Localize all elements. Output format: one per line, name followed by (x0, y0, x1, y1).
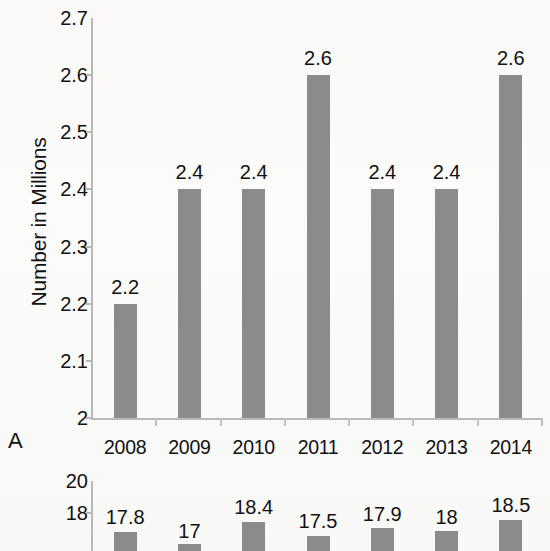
y-axis-tick-label: 2.7 (60, 7, 88, 30)
bar (242, 189, 265, 418)
bar (307, 75, 330, 418)
x-axis-tick-label: 2010 (233, 436, 275, 459)
y-axis-tick-mark (86, 512, 93, 514)
x-axis-tick-mark (477, 418, 479, 426)
chart-panel-b: 2018 17.81718.417.517.91818.5 (0, 470, 550, 551)
x-axis-tick-label: 2012 (361, 436, 403, 459)
bar (178, 189, 201, 418)
bar-value-label: 2.4 (368, 161, 396, 184)
y-axis-tick-label: 2.2 (60, 292, 88, 315)
bar-value-label: 18.4 (234, 496, 273, 519)
x-axis-tick-mark (348, 418, 350, 426)
x-axis-tick-mark (284, 418, 286, 426)
bar-value-label: 2.6 (497, 47, 525, 70)
x-axis-tick-label: 2008 (104, 436, 146, 459)
bar (114, 304, 137, 418)
y-axis-line-b (91, 481, 93, 551)
bar-value-label: 17.5 (299, 510, 338, 533)
plot-area-b: 17.81718.417.517.91818.5 (93, 470, 543, 551)
y-axis-tick-label: 20 (66, 470, 88, 493)
bar (371, 528, 394, 551)
bar (499, 75, 522, 418)
y-axis-tick-label: 18 (66, 502, 88, 525)
chart-panel-a: Number in Millions 22.12.22.32.42.52.62.… (0, 0, 550, 462)
bar-value-label: 2.4 (176, 161, 204, 184)
y-axis-tick-label: 2.1 (60, 349, 88, 372)
bar-value-label: 17 (178, 520, 200, 543)
bar (435, 189, 458, 418)
y-axis-tick-labels-b: 2018 (44, 470, 88, 551)
bar-value-label: 18.5 (491, 494, 530, 517)
x-axis-tick-label: 2011 (298, 436, 339, 459)
x-axis-tick-label: 2009 (168, 436, 210, 459)
bar (178, 544, 201, 551)
bar-value-label: 18 (435, 506, 457, 529)
bar-value-label: 2.4 (240, 161, 268, 184)
bar (242, 522, 265, 551)
bar-value-label: 17.9 (363, 503, 402, 526)
x-axis-tick-mark (412, 418, 414, 426)
x-axis-tick-labels-a: 2008200920102011201220132014 (93, 428, 543, 458)
panel-label-a: A (8, 428, 23, 454)
bar-value-label: 17.8 (106, 506, 145, 529)
y-axis-tick-label: 2.6 (60, 64, 88, 87)
y-axis-line-a (91, 18, 93, 418)
bar-value-label: 2.2 (111, 276, 139, 299)
x-axis-tick-mark (541, 418, 543, 426)
y-axis-tick-label: 2.5 (60, 121, 88, 144)
plot-area-a: 2.22.42.42.62.42.42.6 (93, 18, 543, 418)
y-axis-tick-label: 2.4 (60, 178, 88, 201)
bar (114, 532, 137, 551)
x-axis-tick-mark (220, 418, 222, 426)
bar (371, 189, 394, 418)
bar (435, 531, 458, 551)
bar-value-label: 2.4 (433, 161, 461, 184)
x-axis-tick-label: 2013 (425, 436, 467, 459)
x-axis-line-a (91, 418, 543, 420)
x-axis-tick-mark (155, 418, 157, 426)
bar (307, 536, 330, 551)
bar-value-label: 2.6 (304, 47, 332, 70)
y-axis-tick-labels-a: 22.12.22.32.42.52.62.7 (44, 0, 88, 420)
x-axis-tick-label: 2014 (490, 436, 532, 459)
y-axis-tick-label: 2.3 (60, 235, 88, 258)
bar (499, 520, 522, 551)
